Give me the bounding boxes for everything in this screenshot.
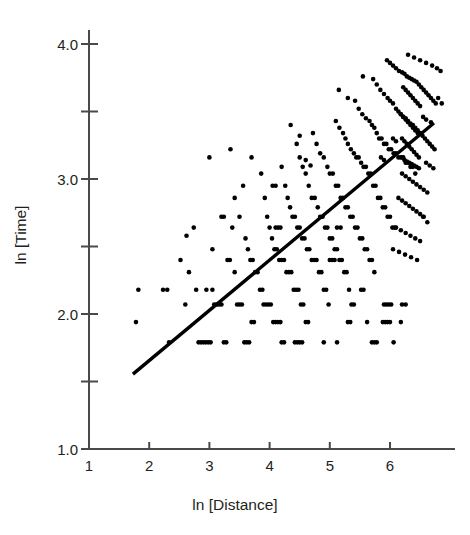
scatter-point	[341, 131, 346, 136]
scatter-point	[161, 287, 166, 292]
scatter-point	[421, 215, 426, 220]
scatter-point	[319, 270, 324, 275]
scatter-point	[374, 131, 379, 136]
scatter-point	[374, 340, 379, 345]
scatter-point	[315, 205, 320, 210]
scatter-point	[367, 119, 372, 124]
scatter-point	[334, 119, 339, 124]
y-tick-label: 2.0	[38, 306, 78, 323]
scatter-point	[382, 92, 387, 97]
scatter-point	[403, 252, 408, 257]
scatter-point	[352, 151, 357, 156]
scatter-point	[413, 236, 418, 241]
scatter-point	[232, 270, 237, 275]
scatter-point	[356, 107, 361, 112]
scatter-point	[346, 96, 351, 101]
scatter-point	[433, 101, 438, 106]
scatter-point	[370, 258, 375, 263]
scatter-point	[247, 340, 252, 345]
scatter-point	[360, 236, 365, 241]
scatter-point	[349, 147, 354, 152]
scatter-point	[408, 233, 413, 238]
scatter-point	[324, 287, 329, 292]
scatter-point	[282, 258, 287, 263]
scatter-point	[365, 247, 370, 252]
y-axis-label: ln [Time]	[12, 206, 30, 265]
scatter-point	[243, 236, 248, 241]
scatter-point	[208, 340, 213, 345]
scatter-point	[204, 287, 209, 292]
scatter-point	[300, 165, 305, 170]
scatter-point	[394, 225, 399, 230]
scatter-point	[383, 205, 388, 210]
scatter-point	[314, 258, 319, 263]
scatter-point	[391, 101, 396, 106]
scatter-point	[432, 147, 437, 152]
scatter-point	[252, 320, 257, 325]
scatter-point	[353, 98, 358, 103]
scatter-point	[388, 215, 393, 220]
scatter-point	[403, 231, 408, 236]
scatter-point	[136, 287, 141, 292]
scatter-point	[288, 205, 293, 210]
scatter-point	[384, 142, 389, 147]
scatter-point	[389, 147, 394, 152]
scatter-point	[439, 101, 444, 106]
scatter-point	[331, 171, 336, 176]
scatter-point	[293, 215, 298, 220]
scatter-point	[325, 165, 330, 170]
scatter-point	[260, 287, 265, 292]
scatter-point	[436, 96, 441, 101]
data-points-group	[134, 53, 444, 345]
scatter-point	[343, 136, 348, 141]
scatter-point	[325, 225, 330, 230]
scatter-point	[425, 220, 430, 225]
scatter-point	[312, 196, 317, 201]
scatter-point	[178, 258, 183, 263]
scatter-point	[372, 125, 377, 130]
scatter-point	[321, 155, 326, 160]
scatter-point	[296, 287, 301, 292]
y-axis-label-container: ln [Time]	[6, 0, 36, 470]
scatter-point	[187, 270, 192, 275]
scatter-point	[278, 320, 283, 325]
scatter-point	[289, 270, 294, 275]
scatter-point	[237, 215, 242, 220]
scatter-point	[210, 247, 215, 252]
scatter-point	[415, 258, 420, 263]
scatter-point	[230, 225, 235, 230]
scatter-point	[241, 183, 246, 188]
scatter-point	[418, 58, 423, 63]
scatter-point	[224, 340, 229, 345]
scatter-point	[306, 183, 311, 188]
scatter-point	[303, 158, 308, 163]
scatter-point	[259, 171, 264, 176]
scatter-point	[431, 166, 436, 171]
scatter-point	[302, 236, 307, 241]
scatter-point	[306, 320, 311, 325]
scatter-point	[191, 225, 196, 230]
scatter-point	[350, 215, 355, 220]
scatter-point	[346, 142, 351, 147]
scatter-point	[184, 233, 189, 238]
scatter-point	[262, 196, 267, 201]
scatter-point	[332, 258, 337, 263]
scatter-point	[347, 287, 352, 292]
scatter-point	[424, 117, 429, 122]
scatter-point	[379, 136, 384, 141]
y-tick-label: 4.0	[38, 36, 78, 53]
regression-line	[133, 123, 434, 374]
scatter-point	[311, 131, 316, 136]
scatter-point	[409, 255, 414, 260]
scatter-point	[430, 63, 435, 68]
scatter-point	[165, 287, 170, 292]
scatter-point	[228, 258, 233, 263]
scatter-point	[361, 287, 366, 292]
scatter-plot-figure: 1.02.03.04.0 123456 ln [Distance] ln [Ti…	[0, 0, 470, 535]
scatter-point	[330, 236, 335, 241]
scatter-point	[270, 236, 275, 241]
scatter-point	[397, 250, 402, 255]
scatter-point	[207, 155, 212, 160]
scatter-point	[267, 225, 272, 230]
scatter-point	[340, 258, 345, 263]
